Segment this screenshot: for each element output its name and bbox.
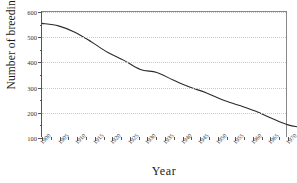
x-axis-minor-tick xyxy=(121,137,122,140)
x-axis-title: Year xyxy=(41,164,287,179)
y-axis-minor-tick xyxy=(40,125,43,126)
y-axis-tick xyxy=(38,62,42,63)
y-axis-title: Number of breeding pairs xyxy=(5,0,17,94)
y-axis-minor-tick xyxy=(40,25,43,26)
plot-area: 100200300400500600 xyxy=(41,11,287,137)
y-axis-minor-tick xyxy=(40,100,43,101)
y-axis-tick-label: 300 xyxy=(27,84,37,91)
y-axis-tick xyxy=(38,88,42,89)
x-axis-minor-tick xyxy=(244,137,245,140)
plot-inner: 100200300400500600 xyxy=(42,12,286,137)
y-axis-tick-label: 100 xyxy=(27,135,37,142)
y-axis-tick-label: 200 xyxy=(27,109,37,116)
y-axis-tick xyxy=(38,113,42,114)
gridline xyxy=(42,88,286,89)
x-axis-minor-tick xyxy=(156,137,157,140)
gridline xyxy=(42,113,286,114)
chart-container: Number of breeding pairs 100200300400500… xyxy=(0,0,297,183)
line-series-breeding-pairs xyxy=(42,12,288,138)
gridline xyxy=(42,62,286,63)
y-axis-tick xyxy=(38,37,42,38)
y-axis-tick-label: 600 xyxy=(27,9,37,16)
x-axis-minor-tick xyxy=(279,137,280,140)
y-axis-tick xyxy=(38,12,42,13)
gridline xyxy=(42,12,286,13)
y-axis-minor-tick xyxy=(40,75,43,76)
gridline xyxy=(42,37,286,38)
y-axis-tick-label: 400 xyxy=(27,59,37,66)
y-axis-tick-label: 500 xyxy=(27,34,37,41)
y-axis-minor-tick xyxy=(40,50,43,51)
